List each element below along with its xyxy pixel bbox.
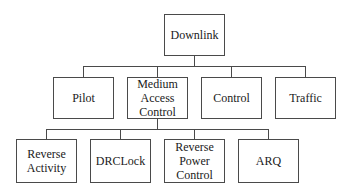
connector-to-drclock — [120, 129, 121, 139]
connector-to-reverse-activity — [46, 129, 47, 139]
connector-to-pilot — [83, 66, 84, 77]
connector-to-reverse-power-control — [194, 129, 195, 139]
node-drclock: DRCLock — [90, 139, 151, 183]
connector-root-down — [194, 55, 195, 66]
node-medium-access-control: Medium Access Control — [127, 77, 188, 119]
node-downlink: Downlink — [164, 14, 225, 56]
node-reverse-power-control: Reverse Power Control — [164, 139, 225, 183]
node-arq: ARQ — [238, 139, 299, 183]
connector-level2-bus — [46, 129, 268, 130]
connector-to-traffic — [305, 66, 306, 77]
node-control: Control — [201, 77, 262, 119]
connector-to-control — [231, 66, 232, 77]
node-traffic: Traffic — [275, 77, 336, 119]
node-reverse-activity: Reverse Activity — [16, 139, 77, 183]
channel-hierarchy-diagram: Downlink Pilot Medium Access Control Con… — [0, 0, 350, 192]
connector-level1-bus — [83, 66, 305, 67]
connector-to-arq — [268, 129, 269, 139]
node-pilot: Pilot — [53, 77, 114, 119]
connector-to-mac — [157, 66, 158, 77]
connector-mac-down — [157, 118, 158, 129]
